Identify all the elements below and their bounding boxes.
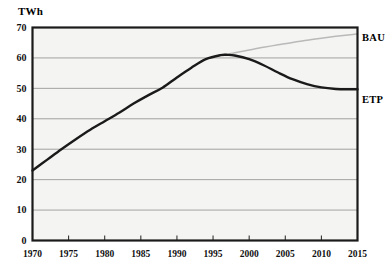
series-label-bau: BAU: [362, 32, 385, 44]
svg-text:10: 10: [17, 204, 27, 215]
chart-container: TWh 010203040506070 19701975198019851990…: [0, 0, 392, 275]
plot-background: [33, 28, 358, 241]
svg-text:20: 20: [17, 174, 27, 185]
svg-text:1995: 1995: [204, 249, 223, 259]
svg-text:60: 60: [17, 52, 27, 63]
line-chart-plot: 010203040506070 197019751980198519901995…: [0, 0, 392, 275]
svg-text:2015: 2015: [348, 249, 367, 259]
svg-text:30: 30: [17, 144, 27, 155]
series-label-etp: ETP: [362, 94, 383, 106]
y-axis-tick-labels: 010203040506070: [17, 22, 27, 246]
svg-text:50: 50: [17, 83, 27, 94]
svg-text:1985: 1985: [131, 249, 150, 259]
svg-text:1970: 1970: [23, 249, 42, 259]
svg-text:2005: 2005: [276, 249, 295, 259]
svg-text:70: 70: [17, 22, 27, 33]
svg-text:1975: 1975: [59, 249, 78, 259]
svg-text:2000: 2000: [240, 249, 259, 259]
svg-text:1980: 1980: [95, 249, 114, 259]
x-axis-tick-labels: 1970197519801985199019952000200520102015: [23, 249, 367, 259]
svg-text:2010: 2010: [312, 249, 331, 259]
svg-text:0: 0: [22, 235, 27, 246]
svg-text:1990: 1990: [167, 249, 186, 259]
svg-text:40: 40: [17, 113, 27, 124]
